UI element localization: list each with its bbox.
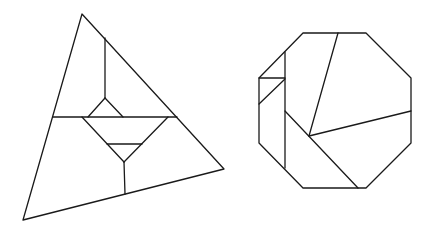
dissected-octagon-cut-line (285, 111, 358, 188)
dissected-octagon-cut-line (309, 33, 338, 136)
dissected-triangle-cut-line (88, 98, 105, 117)
dissected-triangle (23, 14, 224, 220)
figure-svg (0, 0, 430, 236)
dissected-triangle-cut-line (124, 162, 125, 194)
dissected-triangle-cut-line (105, 98, 123, 117)
dissected-triangle-cut-line (124, 117, 168, 162)
dissected-octagon-outline (259, 33, 411, 188)
dissected-triangle-cut-line (82, 117, 124, 162)
dissected-octagon (259, 33, 411, 188)
dissection-figure (0, 0, 430, 236)
dissected-octagon-cut-line (259, 79, 285, 104)
dissected-octagon-cut-line (309, 111, 411, 136)
